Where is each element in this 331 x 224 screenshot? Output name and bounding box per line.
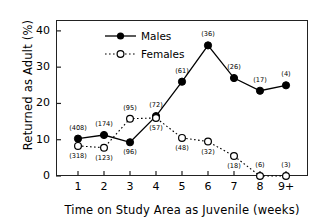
legend-label-males: Males: [141, 30, 171, 42]
legend-label-females: Females: [141, 48, 184, 60]
chart-root: Returned as Adult (%) Time on Study Area…: [0, 0, 331, 224]
